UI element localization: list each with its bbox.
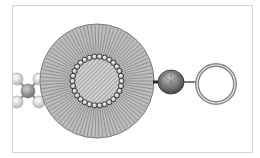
bead: [117, 68, 122, 73]
bead: [87, 55, 92, 60]
diagram-frame: [12, 5, 253, 153]
bead: [92, 54, 97, 59]
faceted-polyhedron: [158, 70, 184, 94]
diagram-canvas: [13, 6, 253, 153]
open-ring: [197, 65, 235, 103]
bead: [97, 54, 102, 59]
bead: [97, 103, 102, 108]
bead: [118, 73, 123, 78]
bead: [70, 73, 75, 78]
bead: [70, 78, 75, 83]
bead: [102, 102, 107, 107]
bead: [70, 83, 75, 88]
bead: [92, 103, 97, 108]
bead: [118, 83, 123, 88]
bead: [72, 88, 77, 93]
bead: [119, 78, 124, 83]
